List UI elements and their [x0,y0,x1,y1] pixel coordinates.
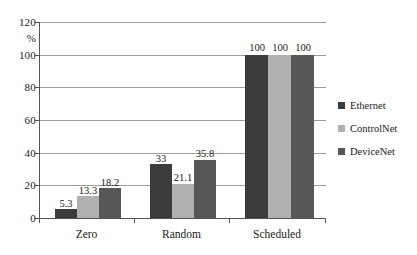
x-axis-category-zero: Zero [39,228,134,241]
y-axis-tick-label-0: 0 [2,213,36,224]
y-axis-unit-label: % [2,33,36,44]
bar-label-random-devicenet: 35.8 [187,148,223,159]
legend-item-label: ControlNet [350,123,397,134]
gridline-120 [39,22,326,23]
bar-label-scheduled-devicenet: 100 [285,42,321,53]
legend-swatch-icon [338,102,345,109]
x-axis-category-scheduled: Scheduled [229,228,325,241]
legend-item-ethernet[interactable]: Ethernet [338,96,397,114]
legend-item-label: DeviceNet [350,146,395,157]
legend-item-controlnet[interactable]: ControlNet [338,119,397,137]
bar-zero-ethernet [55,209,77,218]
plot-area: 5.3 13.3 18.2 33 21.1 35.8 100 100 100 [39,22,326,218]
bar-label-zero-devicenet: 18.2 [92,177,128,188]
y-axis-tick-label-80: 80 [2,82,36,93]
bar-label-random-controlnet: 21.1 [165,172,201,183]
legend-swatch-icon [338,148,345,155]
legend-item-devicenet[interactable]: DeviceNet [338,142,397,160]
bar-random-devicenet [194,160,216,218]
bar-chart: 5.3 13.3 18.2 33 21.1 35.8 100 100 100 1… [0,0,417,255]
y-axis-tick-label-120: 120 [2,17,36,28]
legend: Ethernet ControlNet DeviceNet [338,96,397,165]
bar-random-controlnet [172,184,194,218]
y-axis-tick-label-60: 60 [2,115,36,126]
y-axis-tick-label-40: 40 [2,148,36,159]
x-tickmark-1 [134,218,135,223]
x-tickmark-0 [39,218,40,223]
x-tickmark-2 [229,218,230,223]
bar-label-zero-ethernet: 5.3 [48,198,84,209]
bar-scheduled-ethernet [245,55,268,218]
legend-item-label: Ethernet [350,100,386,111]
bar-label-random-ethernet: 33 [143,153,179,164]
bar-scheduled-controlnet [268,55,291,218]
y-axis-tick-label-100: 100 [2,50,36,61]
x-axis-line [39,218,326,219]
x-tickmark-3 [325,218,326,223]
bar-scheduled-devicenet [291,55,314,218]
y-axis-tick-label-20: 20 [2,180,36,191]
x-axis-category-random: Random [134,228,229,241]
legend-swatch-icon [338,125,345,132]
y-axis-labels: 120 % 100 80 60 40 20 0 [0,0,36,255]
